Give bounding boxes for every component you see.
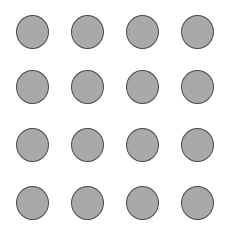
- circle-grid: [0, 0, 225, 231]
- circle-r3-c3: [181, 186, 214, 220]
- circle-r2-c1: [71, 128, 104, 162]
- circle-r0-c3: [181, 15, 214, 49]
- circle-r1-c2: [126, 70, 159, 104]
- circle-r1-c1: [71, 70, 104, 104]
- circle-r1-c0: [16, 70, 49, 104]
- circle-r2-c2: [126, 128, 159, 162]
- circle-r3-c2: [126, 186, 159, 220]
- circle-r3-c1: [71, 186, 104, 220]
- circle-r0-c1: [71, 15, 104, 49]
- circle-r0-c2: [126, 15, 159, 49]
- circle-r2-c0: [16, 128, 49, 162]
- circle-r0-c0: [16, 15, 49, 49]
- circle-r3-c0: [16, 186, 49, 220]
- circle-r2-c3: [181, 128, 214, 162]
- circle-r1-c3: [181, 70, 214, 104]
